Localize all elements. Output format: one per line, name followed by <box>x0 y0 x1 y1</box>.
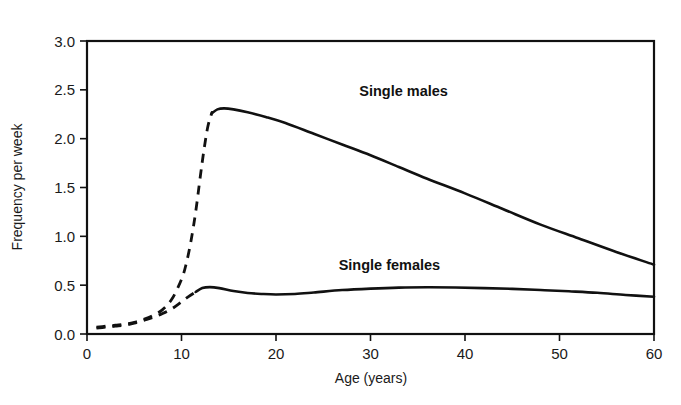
x-tick-label: 50 <box>551 345 568 362</box>
y-tick-label: 0.5 <box>54 277 75 294</box>
y-tick-label: 3.0 <box>54 33 75 50</box>
x-tick-label: 40 <box>457 345 474 362</box>
series-label-2: Single females <box>339 257 441 273</box>
chart-figure: 0102030405060 0.00.51.01.52.02.53.0 Sing… <box>0 0 681 405</box>
y-axis-title: Frequency per week <box>9 123 25 251</box>
chart-canvas: 0102030405060 0.00.51.01.52.02.53.0 Sing… <box>0 0 681 405</box>
y-tick-label: 0.0 <box>54 326 75 343</box>
x-tick-label: 20 <box>268 345 285 362</box>
x-tick-label: 0 <box>83 345 91 362</box>
chart-background <box>0 0 681 405</box>
y-tick-label: 2.0 <box>54 130 75 147</box>
y-tick-label: 2.5 <box>54 81 75 98</box>
y-tick-label: 1.0 <box>54 228 75 245</box>
x-tick-label: 30 <box>362 345 379 362</box>
series-label-1: Single males <box>359 83 448 99</box>
y-tick-label: 1.5 <box>54 179 75 196</box>
x-axis-title: Age (years) <box>335 370 407 386</box>
x-tick-label: 60 <box>646 345 663 362</box>
x-tick-label: 10 <box>173 345 190 362</box>
